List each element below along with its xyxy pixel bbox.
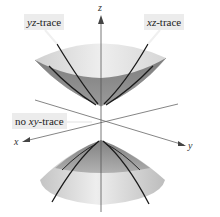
lower-sheet bbox=[40, 140, 165, 205]
yz-trace-var: yz bbox=[27, 16, 36, 28]
x-axis-label: x bbox=[14, 136, 18, 147]
xz-trace-text: -trace bbox=[156, 16, 181, 28]
z-axis-label: z bbox=[98, 2, 102, 13]
hyperboloid-diagram bbox=[0, 0, 220, 217]
y-axis-label: y bbox=[188, 140, 192, 151]
yz-trace-label: yz-trace bbox=[24, 14, 64, 30]
no-xy-trace-text: -trace bbox=[39, 115, 64, 127]
no-xy-trace-label: no xy-trace bbox=[12, 113, 67, 129]
upper-sheet bbox=[35, 43, 166, 106]
no-xy-trace-var: xy bbox=[29, 115, 39, 127]
no-xy-trace-prefix: no bbox=[15, 115, 29, 127]
xz-trace-label: xz-trace bbox=[144, 14, 184, 30]
xz-trace-var: xz bbox=[147, 16, 156, 28]
yz-trace-text: -trace bbox=[36, 16, 61, 28]
